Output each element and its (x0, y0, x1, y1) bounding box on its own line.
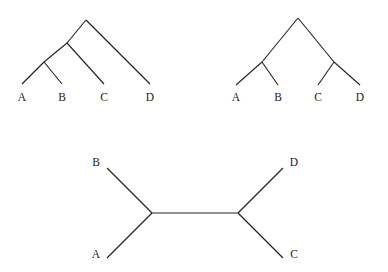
phylogenetic-figure: A B C D A B C D (0, 0, 388, 272)
taxon-label-A: A (232, 91, 241, 103)
taxon-label-B: B (92, 156, 100, 168)
figure-background (0, 0, 388, 272)
taxon-label-A: A (18, 91, 27, 103)
taxon-label-D: D (356, 91, 364, 103)
tree-canvas: A B C D A B C D (0, 0, 388, 272)
taxon-label-C: C (290, 248, 298, 260)
taxon-label-B: B (274, 91, 282, 103)
taxon-label-B: B (58, 91, 66, 103)
taxon-label-A: A (92, 248, 101, 260)
taxon-label-D: D (146, 91, 154, 103)
taxon-label-C: C (314, 91, 322, 103)
taxon-label-D: D (290, 156, 298, 168)
taxon-label-C: C (100, 91, 108, 103)
